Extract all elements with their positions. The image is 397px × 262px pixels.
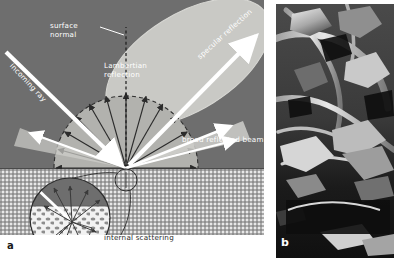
- panel-a-letter: a: [7, 240, 14, 251]
- callout-circle: [115, 169, 137, 191]
- label-surface-normal: surface normal: [50, 22, 78, 39]
- label-internal-scattering: internal scattering: [104, 234, 174, 243]
- panel-b-image-layer: [276, 4, 394, 258]
- panel-a-diagram: surface normal Lambertian reflection inc…: [0, 0, 264, 262]
- panel-gap: [264, 0, 276, 262]
- label-lambertian-line2: reflection: [104, 71, 147, 80]
- surface-normal-leader: [100, 27, 124, 35]
- label-surface-normal-line2: normal: [50, 31, 78, 40]
- panel-b-micrograph: b: [276, 4, 394, 258]
- panel-b-letter: b: [281, 236, 289, 249]
- label-broad-reflected-beam: broad reflected beam: [182, 136, 264, 145]
- label-lambertian-reflection: Lambertian reflection: [104, 62, 147, 79]
- figure-root: surface normal Lambertian reflection inc…: [0, 0, 397, 262]
